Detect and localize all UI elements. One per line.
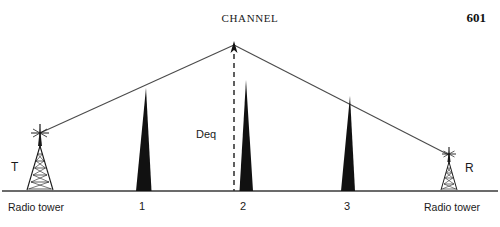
deq-arrowhead-icon	[231, 41, 238, 53]
radio-tower-left-icon	[27, 124, 53, 190]
page-header-title: CHANNEL	[0, 12, 500, 24]
peak-label-3: 3	[335, 200, 359, 212]
tower-label-transmit: T	[11, 160, 18, 174]
mountain-peak-1	[136, 88, 152, 191]
tower-caption-right: Radio tower	[424, 201, 480, 213]
mountain-peak-2	[240, 80, 254, 191]
deq-label: Deq	[196, 128, 216, 140]
page-number: 601	[467, 10, 487, 26]
channel-profile-figure: T R Deq 1 2 3 Radio tower Radio tower	[0, 28, 500, 227]
mountain-peak-3	[341, 96, 355, 191]
tower-label-receive: R	[465, 161, 474, 175]
radio-tower-right-icon	[441, 147, 457, 190]
figure-vector	[0, 28, 500, 227]
peak-label-1: 1	[130, 200, 154, 212]
ray-right	[234, 45, 449, 155]
page-canvas: CHANNEL 601	[0, 0, 500, 227]
ray-left	[40, 45, 234, 133]
tower-caption-left: Radio tower	[8, 201, 64, 213]
peak-label-2: 2	[231, 200, 255, 212]
